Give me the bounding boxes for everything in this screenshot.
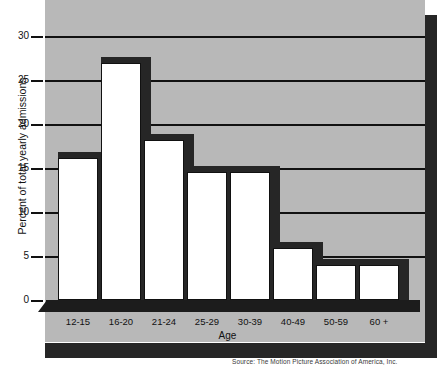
source-note: Source: The Motion Picture Association o… bbox=[232, 358, 397, 365]
bars-layer bbox=[0, 0, 437, 366]
bar-face-30-39 bbox=[230, 172, 270, 300]
xtick-label-60-plus: 60 + bbox=[354, 316, 404, 327]
bar-face-12-15 bbox=[58, 158, 98, 300]
x-axis-title-text: Age bbox=[219, 330, 237, 341]
bar-face-16-20 bbox=[101, 63, 141, 300]
bar-face-25-29 bbox=[187, 172, 227, 300]
x-axis-title: Age bbox=[0, 330, 437, 341]
bar-chart-figure: 30 25 20 15 10 5 0 Percent of total year… bbox=[0, 0, 437, 366]
bar-face-60-plus bbox=[359, 265, 399, 300]
bar-face-50-59 bbox=[316, 265, 356, 300]
bar-face-21-24 bbox=[144, 140, 184, 300]
bar-face-40-49 bbox=[273, 248, 313, 300]
